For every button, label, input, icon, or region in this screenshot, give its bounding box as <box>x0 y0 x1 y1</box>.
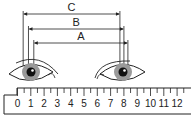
left-highlight <box>31 69 34 72</box>
ruler-label: 7 <box>108 98 114 109</box>
arrowhead-right <box>124 41 128 45</box>
measurement-lines: CBA <box>23 1 128 70</box>
ruler-label: 12 <box>172 98 184 109</box>
measurement-label: B <box>73 16 80 28</box>
arrowhead-right <box>120 27 124 31</box>
ruler-labels: 0123456789101112 <box>15 98 183 109</box>
ruler-label: 10 <box>145 98 157 109</box>
arrowhead-right <box>116 12 120 16</box>
ruler-label: 3 <box>55 98 61 109</box>
pd-diagram: CBA 0123456789101112 <box>0 0 191 119</box>
ruler-label: 2 <box>41 98 47 109</box>
ruler-label: 8 <box>121 98 127 109</box>
measurement-a: A <box>34 30 128 70</box>
ruler-label: 0 <box>15 98 21 109</box>
measurement-label: C <box>68 1 76 13</box>
ruler-label: 5 <box>81 98 87 109</box>
arrowhead-left <box>23 12 27 16</box>
left-tear-duct <box>48 74 55 78</box>
right-highlight <box>123 69 126 72</box>
arrowhead-left <box>28 27 32 31</box>
ruler-ticks <box>18 88 184 96</box>
ruler-label: 11 <box>159 98 170 109</box>
ruler-label: 9 <box>134 98 140 109</box>
ruler-label: 1 <box>28 98 34 109</box>
ruler-label: 4 <box>68 98 74 109</box>
ruler-label: 6 <box>95 98 101 109</box>
measurement-label: A <box>77 30 85 42</box>
left-pupil <box>27 68 36 77</box>
ruler: 0123456789101112 <box>4 88 191 114</box>
arrowhead-left <box>34 41 38 45</box>
right-eye <box>95 61 145 81</box>
right-pupil <box>119 68 128 77</box>
